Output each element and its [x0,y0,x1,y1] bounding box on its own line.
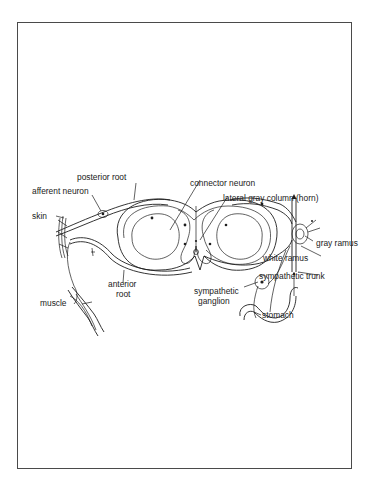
label-white-ramus: white ramus [262,253,308,263]
label-skin: skin [32,211,47,221]
label-anterior-root-1: anterior [108,279,137,289]
label-muscle: muscle [40,298,67,308]
label-sympathetic-ganglion-2: ganglion [198,296,230,306]
label-afferent-neuron: afferent neuron [32,186,89,196]
label-lateral-gray-column: lateral gray column (horn) [223,193,319,203]
label-connector-neuron: connector neuron [190,178,256,188]
spinal-nerve-diagram: posterior root afferent neuron skin conn… [0,0,371,487]
skin-tissue [58,216,68,258]
muscle-tissue [68,287,104,336]
spinal-cord [117,199,277,270]
label-posterior-root: posterior root [77,172,127,182]
label-sympathetic-trunk: sympathetic trunk [259,271,325,281]
label-stomach: stomach [262,310,294,320]
label-gray-ramus: gray ramus [316,238,358,248]
label-anterior-root-2: root [116,289,131,299]
label-sympathetic-ganglion-1: sympathetic [194,286,239,296]
